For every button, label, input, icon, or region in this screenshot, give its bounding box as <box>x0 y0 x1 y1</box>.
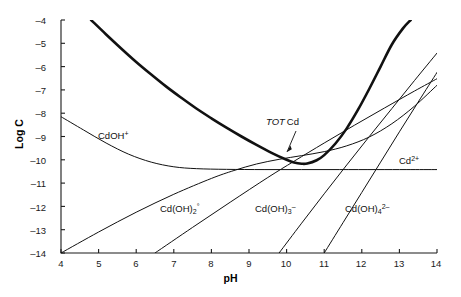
plot-canvas <box>0 0 461 297</box>
curve-cd-oh-3- <box>279 53 437 253</box>
y-tick-label: –6 <box>18 62 46 73</box>
cdoh-plus-charge: + <box>124 130 128 137</box>
x-tick-label: 4 <box>49 258 73 269</box>
speciation-diagram-figure: –4 –5 –6 –7 –8 –9 –10 –11 –12 –13 –14 4 … <box>0 0 461 297</box>
cd2plus-charge: 2+ <box>411 155 419 162</box>
x-tick-label: 14 <box>424 258 448 269</box>
curve-label-cd2plus: Cd2+ <box>399 155 419 166</box>
tot-cd-text: Cd <box>287 116 299 127</box>
x-tick-label: 11 <box>312 258 336 269</box>
curve-label-cdoh-plus: CdOH+ <box>98 130 129 141</box>
curve-label-cdoh4: Cd(OH)42– <box>345 203 389 215</box>
y-tick-label: –5 <box>18 38 46 49</box>
x-tick-label: 7 <box>162 258 186 269</box>
x-tick-label: 6 <box>124 258 148 269</box>
y-tick-label: –11 <box>14 178 46 189</box>
x-tick-label: 12 <box>349 258 373 269</box>
curve-label-cdoh2: Cd(OH)2° <box>160 203 199 215</box>
annotation-leader <box>287 131 296 152</box>
cdoh2-charge: ° <box>197 203 200 210</box>
cdoh2-text: Cd(OH) <box>160 203 193 214</box>
annotation-tot-cd: TOTCd <box>266 116 299 127</box>
cdoh3-charge: – <box>292 203 296 210</box>
cdoh4-text: Cd(OH) <box>345 203 378 214</box>
curve-tot-cd <box>91 20 411 164</box>
y-tick-label: –4 <box>18 15 46 26</box>
tot-italic-text: TOT <box>266 116 285 127</box>
cdoh3-text: Cd(OH) <box>255 203 288 214</box>
curve-cd-oh-4-2- <box>324 72 437 253</box>
curve-label-cdoh3: Cd(OH)3– <box>255 203 296 215</box>
y-tick-label: –14 <box>14 248 46 259</box>
y-tick-label: –7 <box>18 85 46 96</box>
cd2plus-text: Cd <box>399 155 411 166</box>
y-axis-title: Log C <box>13 104 25 164</box>
x-tick-label: 5 <box>87 258 111 269</box>
x-tick-label: 13 <box>387 258 411 269</box>
cdoh4-charge: 2– <box>382 203 390 210</box>
x-tick-label: 8 <box>199 258 223 269</box>
x-tick-label: 9 <box>237 258 261 269</box>
x-axis-title: pH <box>0 272 461 284</box>
y-tick-label: –12 <box>14 202 46 213</box>
y-tick-label: –13 <box>14 225 46 236</box>
cdoh-plus-text: CdOH <box>98 130 124 141</box>
x-tick-label: 10 <box>274 258 298 269</box>
